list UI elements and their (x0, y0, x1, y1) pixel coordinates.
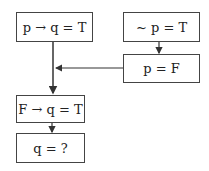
node-premise2: ~ p = T (123, 12, 200, 42)
node-question-label: q = ? (33, 141, 67, 156)
node-derived-p-label: p = F (143, 61, 180, 76)
node-substituted: F → q = T (16, 95, 85, 123)
node-premise1: p → q = T (16, 12, 93, 42)
node-premise2-label: ~ p = T (136, 20, 187, 35)
node-question: q = ? (16, 133, 85, 163)
node-premise1-label: p → q = T (23, 20, 87, 35)
node-substituted-label: F → q = T (18, 102, 82, 117)
node-derived-p: p = F (123, 54, 200, 83)
